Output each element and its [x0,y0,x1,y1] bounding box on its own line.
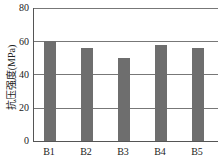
bar-b4 [155,45,167,141]
y-tick-20: 20 [5,103,29,113]
gridline-80 [34,8,218,9]
plot-area [33,8,218,142]
y-tick-60: 60 [5,37,29,47]
y-tick-80: 80 [5,3,29,13]
x-tick-b5: B5 [182,146,212,157]
x-tick-b2: B2 [71,146,101,157]
y-tick-40: 40 [5,70,29,80]
bar-b1 [44,41,56,141]
y-tick-0: 0 [5,136,29,146]
bar-b3 [118,58,130,141]
x-tick-b1: B1 [34,146,64,157]
bar-b2 [81,48,93,141]
x-tick-b3: B3 [108,146,138,157]
bar-b5 [192,48,204,141]
gridline-60 [34,41,218,42]
x-tick-b4: B4 [145,146,175,157]
